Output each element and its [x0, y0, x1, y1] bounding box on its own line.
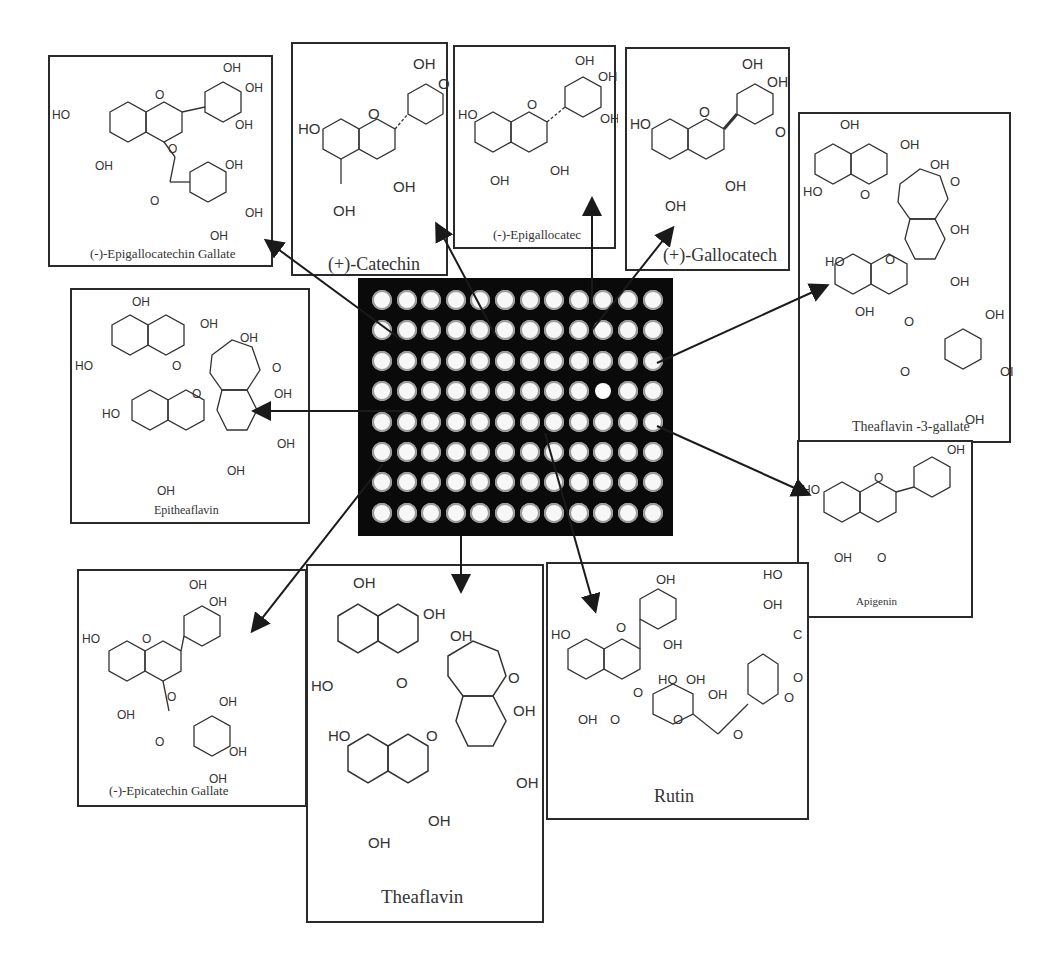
well — [446, 412, 466, 432]
svg-text:O: O — [793, 670, 803, 685]
egcg-structure-icon: OHOHOH HOOOH OO OHOHOH — [50, 57, 275, 269]
svg-text:OH: OH — [950, 274, 970, 289]
svg-text:OH: OH — [725, 178, 746, 194]
svg-text:HO: HO — [825, 254, 845, 269]
well — [470, 381, 490, 401]
well — [593, 472, 613, 492]
compound-box-catechin: OHOHO OOHOH (+)-Catechin — [291, 42, 448, 276]
svg-text:O: O — [699, 104, 710, 120]
well — [520, 381, 540, 401]
svg-text:OH: OH — [333, 202, 356, 219]
well — [495, 381, 515, 401]
well — [569, 472, 589, 492]
well — [595, 383, 611, 399]
well — [593, 320, 613, 340]
svg-text:O: O — [784, 690, 794, 705]
svg-text:O: O — [633, 685, 643, 700]
svg-text:O: O — [150, 194, 159, 208]
svg-text:OH: OH — [209, 595, 227, 609]
well — [397, 412, 417, 432]
svg-text:O: O — [610, 712, 620, 727]
well — [470, 351, 490, 371]
catechin-structure-icon: OHOHO OOHOH — [293, 44, 450, 278]
svg-text:OH: OH — [393, 178, 416, 195]
svg-text:OH: OH — [490, 173, 510, 188]
svg-text:HO: HO — [311, 677, 334, 694]
svg-text:O: O — [616, 620, 626, 635]
well — [470, 472, 490, 492]
well — [544, 503, 564, 523]
well — [446, 503, 466, 523]
svg-text:O: O — [192, 387, 201, 401]
svg-text:OH: OH — [235, 118, 253, 132]
compound-label: (-)-Epigallocatec — [493, 227, 615, 243]
well — [397, 503, 417, 523]
compound-box-apigenin: OHHOO OHO Apigenin — [797, 440, 973, 618]
well — [520, 442, 540, 462]
well — [421, 442, 441, 462]
svg-text:O: O — [172, 359, 181, 373]
well — [446, 290, 466, 310]
compound-box-egcg: OHOHOH HOOOH OO OHOHOH (-)-Epigallocatec… — [48, 55, 273, 267]
svg-text:O: O — [900, 364, 910, 379]
svg-text:HO: HO — [82, 632, 100, 646]
well — [593, 351, 613, 371]
svg-text:OH: OH — [985, 307, 1005, 322]
well — [569, 442, 589, 462]
well — [421, 472, 441, 492]
svg-text:OH: OH — [930, 157, 950, 172]
well — [520, 351, 540, 371]
svg-text:HO: HO — [298, 120, 321, 137]
well — [446, 381, 466, 401]
compound-label: (-)-Epicatechin Gallate — [109, 783, 307, 799]
svg-text:OH: OH — [742, 56, 763, 72]
compound-label: Apigenin — [856, 595, 936, 607]
svg-text:HO: HO — [458, 107, 478, 122]
svg-text:O: O — [885, 252, 895, 267]
well — [618, 351, 638, 371]
svg-text:OH: OH — [117, 708, 135, 722]
well — [618, 503, 638, 523]
well — [397, 290, 417, 310]
well — [593, 442, 613, 462]
well — [421, 351, 441, 371]
well — [544, 320, 564, 340]
svg-text:OH: OH — [225, 158, 243, 172]
well — [372, 412, 392, 432]
well — [544, 290, 564, 310]
svg-text:HO: HO — [803, 184, 823, 199]
well — [495, 351, 515, 371]
compound-label: (+)-Catechin — [328, 254, 448, 275]
svg-text:O: O — [368, 105, 380, 122]
well — [569, 320, 589, 340]
well — [446, 351, 466, 371]
svg-text:O: O — [527, 97, 537, 112]
svg-text:OH: OH — [708, 687, 728, 702]
well — [397, 472, 417, 492]
well — [372, 472, 392, 492]
svg-text:OH: OH — [950, 222, 970, 237]
svg-text:O: O — [950, 174, 960, 189]
theaflavin-3-gallate-structure-icon: OHOHOH HOOO OHHOO OHOHO OHOOIOH — [800, 114, 1013, 445]
svg-text:HO: HO — [328, 727, 351, 744]
svg-text:HO: HO — [802, 483, 820, 497]
svg-text:HO: HO — [102, 407, 120, 421]
svg-text:O: O — [426, 727, 438, 744]
svg-text:OH: OH — [219, 695, 237, 709]
apigenin-structure-icon: OHHOO OHO — [799, 442, 975, 620]
compound-box-rutin: OHHOHO OOHOH CHOOH OHOO OOHO OO Rutin — [546, 562, 809, 820]
compound-label: Theaflavin -3-gallate — [852, 419, 1010, 435]
well — [372, 320, 392, 340]
svg-text:OH: OH — [353, 574, 376, 591]
compound-box-ecg: OHOHHO OOOH OHOOHOH (-)-Epicatechin Gall… — [77, 569, 307, 807]
svg-text:O: O — [272, 361, 281, 375]
compound-box-theaflavin-3-gallate: OHOHOH HOOO OHHOO OHOHO OHOOIOH Theaflav… — [798, 112, 1011, 443]
svg-text:OH: OH — [240, 331, 258, 345]
svg-text:OH: OH — [245, 206, 263, 220]
well — [495, 412, 515, 432]
well — [446, 442, 466, 462]
svg-text:O: O — [775, 124, 786, 140]
svg-text:OH: OH — [229, 745, 247, 759]
well — [544, 412, 564, 432]
well — [643, 290, 663, 310]
